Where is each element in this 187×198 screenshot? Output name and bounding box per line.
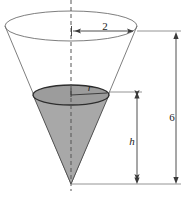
dimension-6-arrowhead-top [173,32,178,39]
dimension-h-label: h [129,135,135,147]
cone-diagram: 2 h 6 r [0,0,187,198]
dimension-top-radius: 2 [72,20,136,36]
dimension-h-arrowhead-top [134,92,139,98]
dimension-2-label: 2 [102,20,108,32]
dimension-6-arrowhead-bottom [173,177,178,184]
radius-label: r [88,81,93,93]
dimension-inner-height: h [129,92,139,184]
dimension-total-height: 6 [169,32,178,184]
geometry-figure-container: 2 h 6 r [0,0,187,198]
dimension-h-arrowhead-bottom [134,178,139,184]
dimension-6-label: 6 [169,111,175,123]
